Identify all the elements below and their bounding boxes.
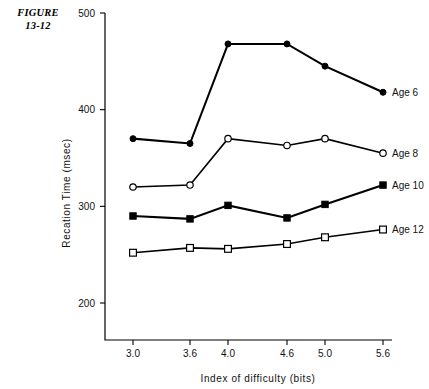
data-point-marker <box>130 213 136 219</box>
data-point-marker <box>380 89 386 95</box>
data-point-marker <box>284 215 290 221</box>
x-tick-label: 3.0 <box>126 348 140 359</box>
data-point-marker <box>380 226 387 233</box>
x-tick-label: 5.6 <box>376 348 390 359</box>
y-tick-label: 200 <box>78 298 95 309</box>
data-point-marker <box>284 241 291 248</box>
chart-series-group <box>130 41 387 256</box>
data-point-marker <box>322 135 328 141</box>
series-line <box>133 230 383 253</box>
chart-tick-marks <box>100 13 383 345</box>
x-tick-label: 3.6 <box>183 348 197 359</box>
data-point-marker <box>322 63 328 69</box>
data-point-marker <box>130 249 137 256</box>
series-age-12 <box>130 226 387 256</box>
data-point-marker <box>130 184 136 190</box>
data-point-marker <box>322 234 329 241</box>
line-chart: 500400300200 3.03.64.04.65.05.6 Age 6Age… <box>0 0 429 389</box>
data-point-marker <box>225 41 231 47</box>
series-label: Age 10 <box>392 180 424 191</box>
series-line <box>133 44 383 144</box>
data-point-marker <box>284 142 290 148</box>
y-tick-label: 500 <box>78 8 95 19</box>
series-label: Age 6 <box>392 87 419 98</box>
axis-lines <box>105 13 392 340</box>
data-point-marker <box>284 41 290 47</box>
x-tick-label: 4.0 <box>221 348 235 359</box>
figure-page: FIGURE 13-12 500400300200 3.03.64.04.65.… <box>0 0 429 389</box>
series-line <box>133 139 383 187</box>
data-point-marker <box>225 245 232 252</box>
data-point-marker <box>322 201 328 207</box>
y-axis-title: Recation Time (msec) <box>61 138 72 247</box>
series-label: Age 8 <box>392 148 419 159</box>
data-point-marker <box>187 182 193 188</box>
y-tick-label: 300 <box>78 201 95 212</box>
x-tick-label: 4.6 <box>280 348 294 359</box>
data-point-marker <box>225 202 231 208</box>
data-point-marker <box>130 136 136 142</box>
series-label: Age 12 <box>392 224 424 235</box>
y-axis-tick-labels: 500400300200 <box>78 8 95 309</box>
data-point-marker <box>380 182 386 188</box>
series-age-10 <box>130 182 386 222</box>
series-age-6 <box>130 41 386 147</box>
data-point-marker <box>187 216 193 222</box>
data-point-marker <box>380 150 386 156</box>
x-axis-tick-labels: 3.03.64.04.65.05.6 <box>126 348 390 359</box>
x-axis-title: Index of difficulty (bits) <box>201 373 316 384</box>
x-tick-label: 5.0 <box>318 348 332 359</box>
series-line <box>133 185 383 219</box>
data-point-marker <box>225 135 231 141</box>
data-point-marker <box>187 141 193 147</box>
chart-series-labels: Age 6Age 8Age 10Age 12 <box>392 87 424 235</box>
y-tick-label: 400 <box>78 104 95 115</box>
series-age-8 <box>130 135 386 190</box>
chart-axes <box>105 13 392 340</box>
data-point-marker <box>187 245 194 252</box>
